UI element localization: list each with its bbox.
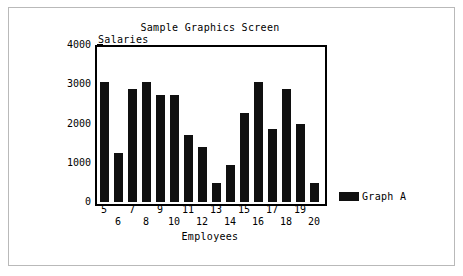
legend-label-graph-a: Graph A — [362, 191, 406, 202]
y-tick-label: 1000 — [67, 158, 91, 168]
bar — [310, 183, 319, 202]
y-tick-label: 4000 — [67, 40, 91, 50]
chart-figure: Sample Graphics Screen Salaries 01000200… — [0, 0, 463, 276]
y-axis-tick-labels: 01000200030004000 — [55, 45, 91, 202]
screenshot-root: Sample Graphics Screen Salaries 01000200… — [0, 0, 463, 276]
bar-series-graph-a — [97, 45, 321, 202]
bar — [128, 89, 137, 202]
chart-title: Sample Graphics Screen — [95, 22, 325, 34]
x-axis-tick-labels: 567891011121314151617181920 — [97, 204, 321, 230]
x-tick-label: 20 — [305, 216, 323, 227]
bar — [114, 153, 123, 202]
bar — [198, 147, 207, 202]
x-axis-label: Employees — [95, 231, 325, 243]
x-tick-label: 16 — [249, 216, 267, 227]
x-tick-label: 13 — [207, 204, 225, 215]
bar — [170, 95, 179, 202]
bar — [226, 165, 235, 202]
x-tick-label: 12 — [193, 216, 211, 227]
x-tick-label: 18 — [277, 216, 295, 227]
bar — [156, 95, 165, 202]
x-tick-label: 11 — [179, 204, 197, 215]
y-tick-label: 0 — [85, 197, 91, 207]
x-tick-label: 10 — [165, 216, 183, 227]
y-tick-label: 3000 — [67, 79, 91, 89]
legend-swatch-graph-a — [339, 192, 359, 201]
x-tick-label: 6 — [109, 216, 127, 227]
y-axis-label: Salaries — [98, 34, 149, 45]
bar — [282, 89, 291, 202]
bar — [184, 135, 193, 202]
bar — [268, 129, 277, 202]
x-tick-label: 7 — [123, 204, 141, 215]
x-tick-label: 9 — [151, 204, 169, 215]
x-tick-label: 19 — [291, 204, 309, 215]
bar — [100, 82, 109, 202]
chart-legend: Graph A — [339, 191, 406, 202]
y-tick-label: 2000 — [67, 119, 91, 129]
bar — [296, 124, 305, 203]
x-tick-label: 17 — [263, 204, 281, 215]
x-tick-label: 5 — [95, 204, 113, 215]
bar — [254, 82, 263, 202]
bar — [240, 113, 249, 202]
x-tick-label: 14 — [221, 216, 239, 227]
x-tick-label: 8 — [137, 216, 155, 227]
x-tick-label: 15 — [235, 204, 253, 215]
bar — [212, 183, 221, 202]
bar — [142, 82, 151, 202]
